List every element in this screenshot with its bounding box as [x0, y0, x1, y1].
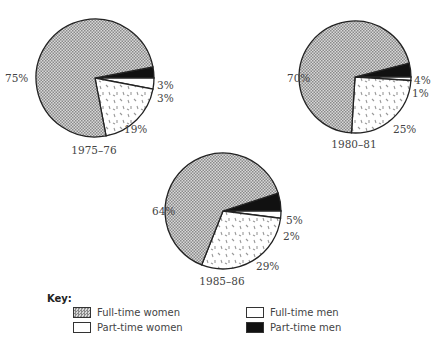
- black-swatch-icon: [246, 322, 264, 333]
- key-title: Key:: [47, 293, 72, 304]
- legend-full-time-women: Full-time women: [73, 307, 180, 318]
- legend-label: Part-time women: [97, 322, 183, 333]
- legend-label: Full-time women: [97, 307, 180, 318]
- white-swatch-icon: [246, 307, 264, 318]
- speckled-swatch-icon: [73, 322, 91, 333]
- legend: Key: Full-time women Part-time women Ful…: [0, 0, 444, 353]
- crosshatch-swatch-icon: [73, 307, 91, 318]
- legend-part-time-men: Part-time men: [246, 322, 341, 333]
- legend-label: Part-time men: [270, 322, 341, 333]
- legend-part-time-women: Part-time women: [73, 322, 183, 333]
- legend-full-time-men: Full-time men: [246, 307, 339, 318]
- legend-label: Full-time men: [270, 307, 339, 318]
